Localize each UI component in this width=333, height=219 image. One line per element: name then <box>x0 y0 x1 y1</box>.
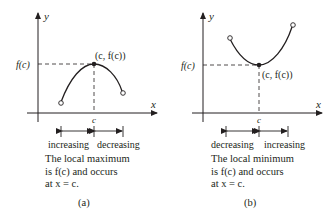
caption-a: The local maximum is f(c) and occurs at … <box>45 153 130 191</box>
caption-line: at x = c. <box>45 178 130 191</box>
level-label: f(c) <box>181 60 196 72</box>
open-endpoint-right <box>291 23 296 28</box>
panel-label-a: (a) <box>78 197 90 208</box>
open-endpoint-left <box>228 36 233 41</box>
curve-maximum <box>61 64 122 102</box>
point-label: (c, f(c)) <box>95 50 126 62</box>
caption-b: The local minimum is f(c) and occurs at … <box>211 153 294 191</box>
caption-line: at x = c. <box>211 178 294 191</box>
open-endpoint-right <box>121 91 126 96</box>
tick-label-c: c <box>257 115 261 125</box>
caption-line: The local maximum <box>45 153 130 166</box>
caption-line: The local minimum <box>211 153 294 166</box>
caption-line: is f(c) and occurs <box>211 166 294 179</box>
open-endpoint-left <box>59 101 64 106</box>
diagram-a: y x f(c) (c, f(c)) c increasing decreasi… <box>16 10 157 150</box>
panel-label-b: (b) <box>244 197 256 208</box>
interval-label-left: decreasing <box>211 139 254 150</box>
y-axis-label: y <box>208 10 214 22</box>
curve-minimum <box>230 27 292 65</box>
interval-label-left: increasing <box>48 139 89 150</box>
x-axis-label: x <box>150 98 156 110</box>
interval-label-right: decreasing <box>97 139 140 150</box>
y-axis-label: y <box>43 10 49 22</box>
tick-label-c: c <box>92 115 96 125</box>
interval-label-right: increasing <box>264 139 305 150</box>
caption-line: is f(c) and occurs <box>45 166 130 179</box>
extremum-point <box>92 62 97 67</box>
level-label: f(c) <box>16 59 31 71</box>
point-label: (c, f(c)) <box>262 69 293 81</box>
diagram-b: y x f(c) (c, f(c)) c decreasing increasi… <box>181 10 322 150</box>
extremum-point <box>257 63 262 68</box>
x-axis-label: x <box>315 98 321 110</box>
